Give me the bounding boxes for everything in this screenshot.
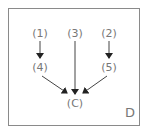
node-4: (4)	[32, 62, 48, 74]
node-1: (1)	[32, 28, 48, 40]
edge-5-to-C	[83, 76, 107, 93]
corner-label: D	[125, 106, 135, 120]
node-3: (3)	[67, 28, 83, 40]
node-2: (2)	[101, 28, 117, 40]
node-5: (5)	[101, 62, 117, 74]
edge-4-to-C	[42, 76, 67, 93]
node-C: (C)	[67, 98, 83, 110]
